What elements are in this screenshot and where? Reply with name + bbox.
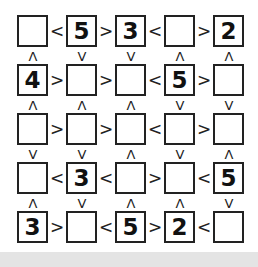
- up-inequality-sign: Λ: [219, 147, 239, 161]
- up-inequality-sign: Λ: [121, 196, 141, 210]
- empty-cell[interactable]: [17, 113, 48, 145]
- less-than-sign: <: [48, 21, 66, 41]
- empty-cell[interactable]: [66, 211, 97, 243]
- empty-cell[interactable]: [115, 113, 146, 145]
- greater-than-sign: >: [97, 21, 115, 41]
- less-than-sign: <: [195, 217, 213, 237]
- less-than-sign: <: [146, 21, 164, 41]
- up-inequality-sign: Λ: [23, 98, 43, 112]
- up-inequality-sign: Λ: [170, 49, 190, 63]
- less-than-sign: <: [48, 168, 66, 188]
- down-inequality-sign: V: [219, 98, 239, 112]
- given-cell: 2: [164, 211, 195, 243]
- given-cell: 5: [213, 162, 244, 194]
- less-than-sign: <: [97, 168, 115, 188]
- empty-cell[interactable]: [213, 113, 244, 145]
- up-inequality-sign: Λ: [219, 49, 239, 63]
- less-than-sign: <: [97, 217, 115, 237]
- up-inequality-sign: Λ: [170, 196, 190, 210]
- empty-cell[interactable]: [66, 64, 97, 96]
- up-inequality-sign: Λ: [23, 49, 43, 63]
- empty-cell[interactable]: [66, 113, 97, 145]
- down-inequality-sign: V: [170, 98, 190, 112]
- up-inequality-sign: Λ: [121, 98, 141, 112]
- greater-than-sign: >: [97, 119, 115, 139]
- given-cell: 5: [164, 64, 195, 96]
- given-cell: 4: [17, 64, 48, 96]
- empty-cell[interactable]: [17, 162, 48, 194]
- empty-cell[interactable]: [213, 64, 244, 96]
- up-inequality-sign: Λ: [72, 98, 92, 112]
- empty-cell[interactable]: [115, 162, 146, 194]
- down-inequality-sign: V: [23, 147, 43, 161]
- greater-than-sign: >: [146, 217, 164, 237]
- down-inequality-sign: V: [72, 49, 92, 63]
- greater-than-sign: >: [195, 70, 213, 90]
- up-inequality-sign: Λ: [121, 147, 141, 161]
- greater-than-sign: >: [48, 70, 66, 90]
- greater-than-sign: >: [48, 217, 66, 237]
- down-inequality-sign: V: [219, 196, 239, 210]
- empty-cell[interactable]: [213, 211, 244, 243]
- empty-cell[interactable]: [115, 64, 146, 96]
- greater-than-sign: >: [146, 168, 164, 188]
- given-cell: 3: [17, 211, 48, 243]
- down-inequality-sign: V: [170, 147, 190, 161]
- less-than-sign: <: [146, 119, 164, 139]
- down-inequality-sign: V: [72, 196, 92, 210]
- given-cell: 5: [115, 211, 146, 243]
- greater-than-sign: >: [195, 21, 213, 41]
- given-cell: 3: [115, 15, 146, 47]
- less-than-sign: <: [146, 70, 164, 90]
- greater-than-sign: >: [48, 119, 66, 139]
- futoshiki-grid: 532<><>45>><>>><>35<<><352><><ΛVVΛΛΛΛΛVV…: [0, 0, 258, 252]
- up-inequality-sign: Λ: [23, 196, 43, 210]
- given-cell: 2: [213, 15, 244, 47]
- footer-bar: [0, 252, 258, 267]
- less-than-sign: <: [195, 168, 213, 188]
- empty-cell[interactable]: [164, 15, 195, 47]
- down-inequality-sign: V: [121, 49, 141, 63]
- given-cell: 3: [66, 162, 97, 194]
- greater-than-sign: >: [195, 119, 213, 139]
- empty-cell[interactable]: [17, 15, 48, 47]
- down-inequality-sign: V: [72, 147, 92, 161]
- empty-cell[interactable]: [164, 113, 195, 145]
- empty-cell[interactable]: [164, 162, 195, 194]
- given-cell: 5: [66, 15, 97, 47]
- greater-than-sign: >: [97, 70, 115, 90]
